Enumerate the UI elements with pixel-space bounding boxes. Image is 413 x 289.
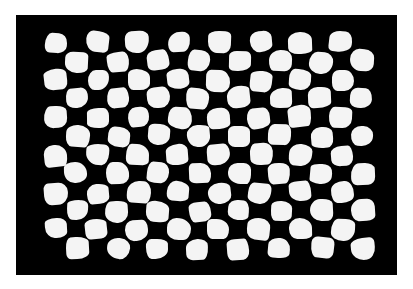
checker-cell-light [45, 32, 68, 53]
checker-cell-light [186, 124, 211, 148]
checker-cell-light [87, 108, 109, 129]
checker-cell-light [146, 48, 170, 71]
checker-cell-light [309, 199, 333, 222]
checker-cell-light [146, 86, 171, 109]
checker-cell-light [328, 30, 353, 54]
checker-cell-light [106, 237, 131, 261]
checker-cell-light [86, 183, 109, 205]
checker-cell-light [331, 181, 355, 203]
checker-cell-light [206, 69, 230, 92]
checker-cell-light [84, 218, 108, 240]
checker-cell-light [330, 145, 353, 167]
checker-cell-light [227, 163, 250, 184]
checker-cell-light [249, 70, 274, 93]
checker-cell-light [44, 105, 69, 128]
checker-cell-light [189, 162, 212, 183]
checker-cell-light [229, 51, 252, 72]
checker-cell-light [186, 239, 209, 261]
checker-cell-light [106, 87, 130, 110]
checker-cell-light [64, 162, 87, 184]
checker-cell-light [145, 200, 169, 223]
checker-cell-light [146, 162, 170, 185]
checker-cell-light [310, 126, 334, 149]
checker-cell-light [148, 124, 172, 146]
checker-cell-light [185, 87, 209, 110]
checker-cell-light [349, 87, 372, 108]
checker-cell-light [249, 30, 273, 53]
checker-cell-light [64, 51, 88, 73]
checker-cell-light [287, 104, 313, 128]
checker-cell-light [65, 87, 88, 109]
checker-cell-light [329, 106, 353, 128]
distorted-checkerboard [46, 33, 372, 258]
checker-cell-light [65, 124, 90, 147]
checker-cell-light [207, 143, 232, 166]
checker-cell-light [332, 70, 354, 91]
checker-cell-light [106, 162, 130, 184]
image-canvas [0, 0, 413, 289]
checker-cell-light [350, 163, 375, 186]
checker-cell-light [288, 181, 311, 203]
checker-cell-light [167, 106, 192, 130]
checker-cell-light [247, 182, 272, 206]
checker-cell-light [350, 198, 375, 222]
checker-cell-light [44, 182, 69, 206]
checker-cell-light [207, 31, 231, 53]
checker-cell-light [87, 70, 109, 90]
checker-cell-light [166, 67, 190, 89]
checker-cell-light [268, 50, 292, 72]
checker-cell-light [206, 107, 230, 130]
checker-cell-light [268, 124, 292, 146]
checker-cell-light [207, 181, 232, 205]
checker-cell-light [310, 236, 335, 260]
checker-cell-light [268, 237, 292, 259]
checker-cell-light [289, 218, 312, 239]
checker-cell-light [351, 126, 374, 147]
checker-cell-light [309, 163, 333, 185]
checker-cell-light [167, 31, 190, 52]
checker-cell-light [105, 201, 130, 224]
checker-cell-light [308, 51, 333, 75]
checker-cell-light [207, 219, 229, 239]
checker-cell-light [167, 218, 191, 240]
checker-cell-light [124, 30, 149, 54]
checker-cell-light [228, 126, 250, 147]
checker-cell-light [308, 87, 331, 109]
checker-cell-light [107, 126, 131, 148]
checker-cell-light [271, 201, 293, 222]
checker-cell-light [226, 85, 252, 109]
checker-cell-light [85, 29, 110, 52]
checker-cell-light [288, 142, 314, 166]
checker-cell-light [249, 142, 274, 166]
checker-cell-light [288, 32, 312, 55]
checker-cell-light [65, 236, 89, 259]
checker-cell-light [127, 106, 150, 128]
checker-cell-light [187, 48, 211, 71]
checker-cell-light [269, 88, 292, 109]
checker-cell-light [227, 239, 251, 261]
checker-cell-light [246, 107, 271, 130]
checker-cell-light [227, 199, 250, 221]
checker-cell-light [288, 69, 311, 91]
checker-cell-light [106, 51, 130, 73]
checker-cell-light [128, 69, 150, 90]
checker-cell-light [246, 217, 271, 241]
checker-cell-light [42, 68, 67, 91]
checker-cell-light [125, 220, 149, 242]
checker-cell-light [66, 199, 88, 220]
checker-cell-light [165, 143, 189, 166]
checker-cell-light [45, 218, 68, 239]
checker-cell-light [86, 143, 111, 166]
checker-cell-light [126, 144, 150, 166]
checker-cell-light [349, 48, 374, 71]
checker-cell-light [146, 239, 168, 260]
checker-cell-light [126, 180, 151, 204]
checker-cell-light [268, 162, 292, 184]
checker-cell-light [330, 219, 354, 242]
checker-cell-light [166, 180, 190, 202]
